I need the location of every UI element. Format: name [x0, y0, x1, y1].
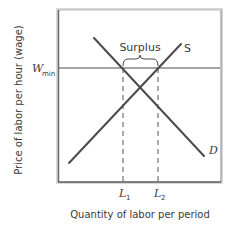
l2-label-sub: 2 [161, 194, 165, 202]
l2-label: L 2 [153, 187, 165, 202]
l1-label-sub: 1 [126, 194, 130, 202]
price-floor-label-sub: min [42, 70, 55, 78]
plot-frame-shadow [57, 9, 222, 183]
price-floor-label: W min [32, 62, 55, 78]
y-axis-label: Price of labor per hour (wage) [13, 25, 24, 175]
surplus-brace [123, 55, 158, 66]
minimum-wage-diagram: Surplus S D W min L 1 L 2 Quantity of la… [0, 0, 238, 232]
l1-label: L 1 [118, 187, 130, 202]
supply-curve [69, 44, 181, 163]
surplus-label: Surplus [119, 41, 160, 54]
demand-curve [94, 38, 204, 156]
plot-frame [58, 10, 221, 182]
supply-label: S [184, 42, 191, 55]
x-axis-label: Quantity of labor per period [70, 209, 210, 220]
demand-label: D [208, 144, 218, 157]
